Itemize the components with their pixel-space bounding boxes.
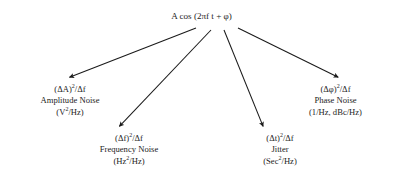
arrow-to-amplitude-line: [70, 28, 197, 77]
frequency-expression: (Δf)2/Δf: [54, 133, 204, 144]
arrow-to-phase-line: [238, 28, 338, 77]
amplitude-expression: (ΔA)2/Δf: [2, 84, 138, 95]
node-source-signal: A cos (2πf t + φ): [0, 10, 403, 22]
jitter-expression: (Δt)2/Δf: [207, 133, 353, 144]
phase-name: Phase Noise: [268, 95, 403, 106]
node-jitter: (Δt)2/Δf Jitter (Sec2/Hz): [207, 133, 353, 167]
jitter-units: (Sec2/Hz): [207, 156, 353, 167]
frequency-units: (Hz2/Hz): [54, 156, 204, 167]
amplitude-name: Amplitude Noise: [2, 95, 138, 106]
node-phase-noise: (Δφ)2/Δf Phase Noise (1/Hz, dBc/Hz): [268, 84, 403, 118]
noise-decomposition-diagram: A cos (2πf t + φ) (ΔA)2/Δf Amplitude Noi…: [0, 0, 403, 186]
node-amplitude-noise: (ΔA)2/Δf Amplitude Noise (V2/Hz): [2, 84, 138, 118]
phase-expression: (Δφ)2/Δf: [268, 84, 403, 95]
amplitude-units: (V2/Hz): [2, 107, 138, 118]
node-frequency-noise: (Δf)2/Δf Frequency Noise (Hz2/Hz): [54, 133, 204, 167]
phase-units: (1/Hz, dBc/Hz): [268, 107, 403, 118]
source-expression: A cos (2πf t + φ): [0, 10, 403, 22]
arrow-to-jitter-line: [224, 30, 263, 126]
